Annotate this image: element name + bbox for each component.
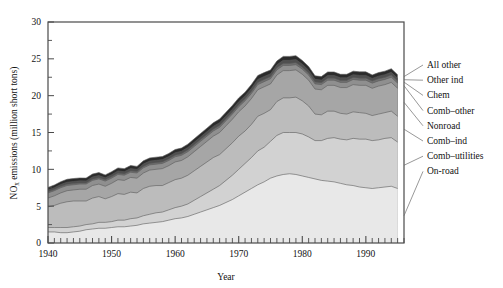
y-tick-label: 20 [32, 91, 42, 101]
legend-label-on-road[interactable]: On-road [427, 166, 459, 176]
y-tick-label: 25 [32, 54, 42, 64]
legend-label-all-other[interactable]: All other [427, 60, 462, 70]
y-tick-label: 0 [36, 238, 41, 248]
y-tick-label: 5 [36, 202, 41, 212]
y-axis-title: NOx emissions (million short tons) [9, 67, 21, 200]
x-tick-label: 1970 [229, 249, 248, 259]
y-tick-label: 10 [32, 165, 42, 175]
legend-label-comb-ind[interactable]: Comb–ind [427, 136, 467, 146]
y-axis-title-suffix: emissions (million short tons) [9, 67, 20, 183]
legend-label-nonroad[interactable]: Nonroad [427, 121, 460, 131]
svg-text:NOx emissions (million short t: NOx emissions (million short tons) [9, 67, 21, 200]
legend-label-chem[interactable]: Chem [427, 90, 450, 100]
x-tick-label: 1960 [166, 249, 185, 259]
x-axis-title: Year [217, 272, 235, 282]
legend-label-other-ind[interactable]: Other ind [427, 75, 463, 85]
x-tick-label: 1980 [293, 249, 312, 259]
legend-label-comb-utilities[interactable]: Comb–utilities [427, 151, 484, 161]
x-tick-label: 1950 [102, 249, 121, 259]
y-axis-title-prefix: NO [9, 186, 19, 200]
stacked-area-chart: 051015202530 194019501960197019801990 Al… [0, 0, 503, 288]
x-tick-label: 1940 [39, 249, 58, 259]
x-tick-label: 1990 [356, 249, 375, 259]
y-tick-label: 30 [32, 17, 42, 27]
y-tick-label: 15 [32, 128, 42, 138]
legend-label-comb-other[interactable]: Comb–other [427, 106, 475, 116]
chart-figure: 051015202530 194019501960197019801990 Al… [0, 0, 503, 288]
